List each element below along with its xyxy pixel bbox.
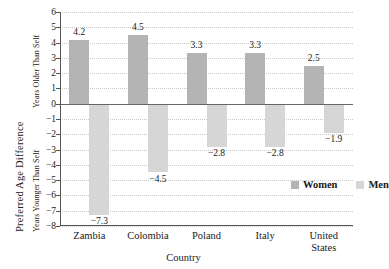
y-axis-tick (56, 226, 60, 227)
gridline (60, 12, 353, 14)
value-label-women: 2.5 (308, 53, 320, 63)
y-axis-tick-label: −6 (34, 190, 56, 200)
bar-women-italy (245, 53, 265, 103)
y-axis-tick-label: 6 (34, 7, 56, 17)
y-axis-tick-label: −8 (34, 221, 56, 231)
y-axis-tick (56, 195, 60, 196)
value-label-men: −2.8 (266, 148, 283, 158)
bar-women-zambia (69, 40, 89, 104)
gridline (60, 226, 353, 228)
y-axis-tick-label: 4 (34, 38, 56, 48)
x-axis-label-zambia: Zambia (73, 230, 105, 242)
y-axis-tick-label: 3 (34, 53, 56, 63)
y-axis-spine (60, 12, 61, 226)
y-axis-tick (56, 88, 60, 89)
bar-women-poland (187, 53, 207, 103)
y-axis-tick (56, 119, 60, 120)
x-axis-spine (60, 225, 353, 226)
chart-legend: Women Men (291, 179, 389, 190)
legend-item-men: Men (356, 179, 388, 190)
y-axis-tick-label: −4 (34, 160, 56, 170)
x-axis-label-italy: Italy (255, 230, 274, 242)
y-axis-tick (56, 73, 60, 74)
y-axis-tick-label: −1 (34, 114, 56, 124)
value-label-women: 3.3 (249, 40, 261, 50)
zero-line (60, 104, 353, 106)
value-label-men: −4.5 (149, 174, 166, 184)
legend-label-men: Men (368, 179, 388, 190)
gridline (60, 43, 353, 45)
y-axis-tick-label: −3 (34, 145, 56, 155)
plot-inner: 4.2−7.34.5−4.53.3−2.83.3−2.82.5−1.9 (60, 12, 353, 226)
y-axis-tick-label: −7 (34, 206, 56, 216)
y-axis-tick-label: −2 (34, 129, 56, 139)
value-label-women: 3.3 (191, 40, 203, 50)
value-label-men: −1.9 (325, 134, 342, 144)
legend-label-women: Women (303, 179, 337, 190)
bar-men-colombia (148, 104, 168, 173)
y-axis-title: Preferred Age Difference (14, 121, 25, 232)
bar-women-united-states (304, 66, 324, 104)
y-axis-tick (56, 165, 60, 166)
bar-women-colombia (128, 35, 148, 104)
bar-men-italy (265, 104, 285, 147)
y-axis-tick-label: 2 (34, 68, 56, 78)
legend-item-women: Women (291, 179, 337, 190)
y-axis-tick-label: −5 (34, 175, 56, 185)
value-label-women: 4.5 (132, 22, 144, 32)
y-axis-tick-label: 1 (34, 83, 56, 93)
y-axis-tick (56, 104, 60, 105)
y-axis-tick (56, 134, 60, 135)
plot-area: 4.2−7.34.5−4.53.3−2.83.3−2.82.5−1.9 Wome… (60, 12, 353, 226)
y-axis-tick (56, 27, 60, 28)
y-axis-tick (56, 43, 60, 44)
y-axis-tick (56, 150, 60, 151)
value-label-women: 4.2 (73, 27, 85, 37)
y-axis-tick-label: 5 (34, 22, 56, 32)
gridline (60, 27, 353, 29)
x-axis-label-poland: Poland (192, 230, 221, 242)
x-axis-label-colombia: Colombia (127, 230, 168, 242)
bar-men-zambia (89, 104, 109, 216)
bar-men-poland (207, 104, 227, 147)
y-axis-tick (56, 211, 60, 212)
y-axis-tick (56, 180, 60, 181)
bar-men-united-states (324, 104, 344, 133)
legend-swatch-women (291, 181, 299, 189)
value-label-men: −2.8 (208, 148, 225, 158)
y-axis-tick (56, 58, 60, 59)
x-axis-title: Country (0, 252, 367, 263)
y-axis-tick (56, 12, 60, 13)
x-axis-label-united-states: UnitedStates (309, 230, 338, 253)
y-axis-tick-label: 0 (34, 99, 56, 109)
legend-swatch-men (356, 181, 364, 189)
